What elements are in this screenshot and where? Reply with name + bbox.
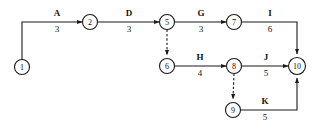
- node-label-8: 8: [232, 62, 236, 71]
- node-8: 8: [227, 59, 242, 74]
- edge-activity-i: I 6: [242, 8, 298, 54]
- node-label-2: 2: [88, 18, 92, 27]
- edge-activity-d: D 3: [98, 8, 160, 34]
- activity-duration-i: 6: [268, 24, 273, 34]
- edge-line-k: [241, 78, 298, 110]
- activity-label-i: I: [268, 8, 272, 18]
- edge-line-a: [22, 22, 82, 60]
- edge-activity-j: J 5: [242, 52, 289, 78]
- node-9: 9: [226, 103, 241, 118]
- activity-label-d: D: [126, 8, 133, 18]
- network-diagram: A 3 D 3 G 3 I 6 H 4 J: [0, 0, 317, 129]
- node-label-9: 9: [231, 106, 235, 115]
- node-6: 6: [160, 59, 175, 74]
- edge-activity-h: H 4: [175, 52, 227, 78]
- activity-duration-g: 3: [199, 24, 204, 34]
- edge-activity-a: A 3: [22, 8, 82, 60]
- node-label-5: 5: [165, 18, 169, 27]
- activity-duration-j: 5: [264, 68, 269, 78]
- activity-duration-d: 3: [127, 24, 132, 34]
- node-label-1: 1: [20, 63, 24, 72]
- edge-activity-k: K 5: [241, 78, 298, 122]
- node-label-6: 6: [165, 62, 169, 71]
- node-7: 7: [227, 15, 242, 30]
- activity-label-j: J: [264, 52, 269, 62]
- activity-label-g: G: [197, 8, 204, 18]
- node-10: 10: [289, 58, 306, 75]
- edge-line-dummy-8-9: [233, 74, 234, 100]
- network-diagram-canvas: A 3 D 3 G 3 I 6 H 4 J: [0, 0, 317, 129]
- node-label-10: 10: [293, 62, 301, 71]
- activity-duration-h: 4: [198, 68, 203, 78]
- node-5: 5: [160, 15, 175, 30]
- edge-activity-g: G 3: [175, 8, 227, 34]
- node-label-7: 7: [232, 18, 236, 27]
- edge-dummy-8-9: [233, 74, 234, 100]
- activity-duration-a: 3: [55, 24, 60, 34]
- node-2: 2: [83, 15, 98, 30]
- activity-duration-k: 5: [263, 112, 268, 122]
- activity-label-a: A: [54, 8, 61, 18]
- node-1: 1: [15, 60, 30, 75]
- activity-label-h: H: [196, 52, 203, 62]
- activity-label-k: K: [261, 96, 268, 106]
